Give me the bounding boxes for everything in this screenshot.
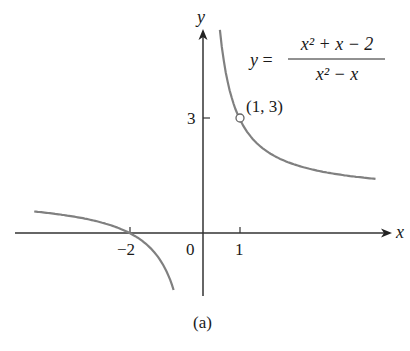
point-annotation: (1, 3)	[246, 97, 283, 116]
x-tick-label-0: 0	[186, 240, 195, 259]
equation-numerator: x² + x − 2	[300, 34, 374, 54]
rational-function-graph: y x −2 0 1 3 (1, 3) y = x² + x − 2 x² − …	[0, 0, 410, 351]
left-branch-curve	[34, 212, 173, 291]
x-axis-label: x	[395, 222, 404, 242]
y-tick-label-3: 3	[187, 109, 196, 128]
x-tick-label-1: 1	[235, 240, 244, 259]
equation-lhs: y =	[248, 50, 273, 70]
removable-discontinuity-marker	[236, 114, 244, 122]
x-tick-label--2: −2	[117, 240, 135, 259]
y-axis-label: y	[195, 7, 205, 27]
figure-caption: (a)	[193, 313, 212, 332]
equation-denominator: x² − x	[315, 64, 359, 84]
